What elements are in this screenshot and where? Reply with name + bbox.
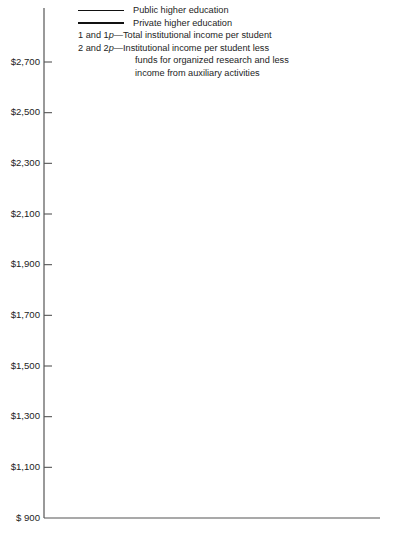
y-axis-tick-label: $1,700 — [0, 309, 40, 320]
y-axis-tick-label: $2,300 — [0, 157, 40, 168]
y-axis-tick-label: $ 900 — [0, 512, 40, 523]
y-axis-tick-label: $1,500 — [0, 360, 40, 371]
axes-layer — [44, 8, 380, 518]
y-axis-tick-label: $2,700 — [0, 56, 40, 67]
y-axis-tick-label: $1,900 — [0, 258, 40, 269]
line-chart: Public higher education Private higher e… — [0, 0, 401, 549]
y-axis-tick-label: $1,100 — [0, 461, 40, 472]
plot-area — [0, 0, 401, 549]
y-axis-tick-label: $1,300 — [0, 410, 40, 421]
y-axis-tick-label: $2,100 — [0, 208, 40, 219]
y-axis-tick-label: $2,500 — [0, 106, 40, 117]
